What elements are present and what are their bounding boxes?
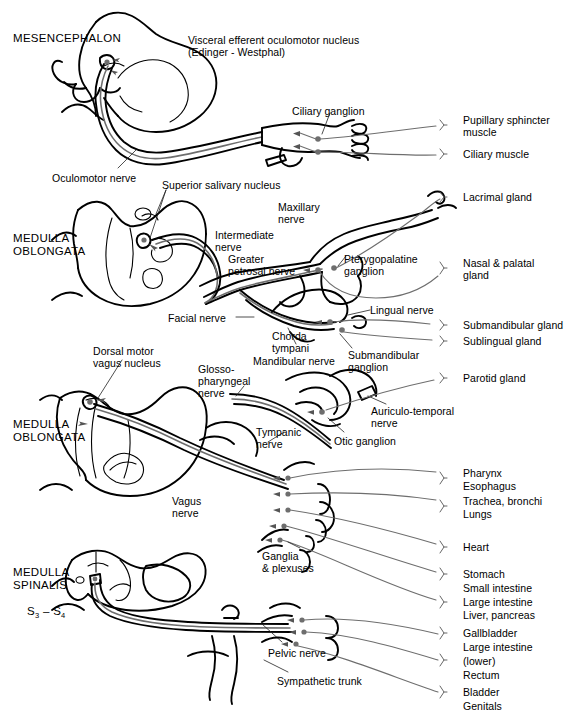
label-vagus-nerve: Vagus nerve bbox=[172, 496, 201, 520]
label-glossopharyngeal-nerve: Glosso- pharyngeal nerve bbox=[198, 364, 250, 399]
label-sympathetic-trunk: Sympathetic trunk bbox=[277, 676, 362, 688]
organ-label-lacrimal-gland: Lacrimal gland bbox=[463, 192, 532, 204]
spinal-segment-text: S3 – S4 bbox=[27, 605, 66, 617]
label-facial-nerve: Facial nerve bbox=[168, 313, 226, 325]
label-lingual-nerve: Lingual nerve bbox=[370, 305, 434, 317]
organ-label-esophagus: Esophagus bbox=[463, 481, 516, 493]
label-oculomotor-nerve: Oculomotor nerve bbox=[52, 173, 136, 185]
organ-label-ciliary-muscle: Ciliary muscle bbox=[463, 149, 529, 161]
region-label-medulla-oblongata-2: MEDULLA OBLONGATA bbox=[13, 418, 86, 444]
organ-label-pharynx: Pharynx bbox=[463, 468, 502, 480]
organ-label-small-intestine: Small intestine bbox=[463, 583, 532, 595]
label-visceral-efferent-oculomotor-nucleus: Visceral efferent oculomotor nucleus (Ed… bbox=[188, 35, 359, 59]
ciliary-ganglion-group bbox=[262, 113, 368, 166]
organ-label-large-intestine: Large intestine bbox=[463, 597, 533, 609]
diagram-page: .o {fill:none;stroke:#000;stroke-width:1… bbox=[0, 0, 566, 712]
organ-label-nasal-and-palatal-gland: Nasal & palatal gland bbox=[463, 258, 534, 282]
label-submandibular-ganglion: Submandibular ganglion bbox=[348, 350, 419, 374]
label-intermediate-nerve: Intermediate nerve bbox=[215, 230, 274, 254]
label-ciliary-ganglion: Ciliary ganglion bbox=[292, 106, 365, 118]
organ-label-bladder: Bladder bbox=[463, 687, 500, 699]
organ-label-lungs: Lungs bbox=[463, 509, 492, 521]
label-chorda-tympani: Chorda tympani bbox=[272, 331, 309, 355]
label-tympanic-nerve: Tympanic nerve bbox=[256, 427, 301, 451]
organ-label-rectum: Rectum bbox=[463, 670, 499, 682]
organ-label-liver-pancreas: Liver, pancreas bbox=[463, 610, 535, 622]
organ-label-heart: Heart bbox=[463, 542, 489, 554]
label-dorsal-motor-vagus-nucleus: Dorsal motor vagus nucleus bbox=[93, 346, 161, 370]
region-label-mesencephalon: MESENCEPHALON bbox=[13, 32, 121, 45]
organ-label-parotid-gland: Parotid gland bbox=[463, 373, 526, 385]
organ-label-sublingual-gland: Sublingual gland bbox=[463, 336, 541, 348]
label-ganglia-and-plexuses: Ganglia & plexuses bbox=[262, 551, 314, 575]
organ-label-gallbladder: Gallbladder bbox=[463, 628, 517, 640]
region-label-spinal-segments: S3 – S4 bbox=[13, 592, 66, 636]
label-maxillary-nerve: Maxillary nerve bbox=[278, 202, 320, 226]
label-greater-petrosal-nerve: Greater petrosal nerve bbox=[228, 254, 295, 278]
organ-label-stomach: Stomach bbox=[463, 569, 505, 581]
region-label-medulla-spinalis: MEDULLA SPINALIS bbox=[13, 566, 69, 592]
medulla-spinalis-section bbox=[52, 551, 438, 704]
label-superior-salivary-nucleus: Superior salivary nucleus bbox=[162, 180, 281, 192]
organ-label-large-intestine-lower-b: (lower) bbox=[463, 656, 495, 668]
organ-label-genitals: Genitals bbox=[463, 701, 502, 712]
label-auriculo-temporal-nerve: Auriculo-temporal nerve bbox=[371, 406, 454, 430]
label-pterygopalatine-ganglion: Pterygopalatine ganglion bbox=[344, 254, 418, 278]
label-pelvic-nerve: Pelvic nerve bbox=[268, 648, 326, 660]
organ-label-submandibular-gland: Submandibular gland bbox=[463, 320, 563, 332]
label-otic-ganglion: Otic ganglion bbox=[334, 436, 396, 448]
organ-label-large-intestine-lower-a: Large intestine bbox=[463, 642, 533, 654]
organ-label-pupillary-sphincter-muscle: Pupillary sphincter muscle bbox=[463, 115, 550, 139]
label-mandibular-nerve: Mandibular nerve bbox=[253, 356, 335, 368]
region-label-medulla-oblongata-1: MEDULLA OBLONGATA bbox=[13, 232, 86, 258]
organ-label-trachea-bronchi: Trachea, bronchi bbox=[463, 496, 542, 508]
submandibular-ganglion-group bbox=[315, 310, 370, 348]
